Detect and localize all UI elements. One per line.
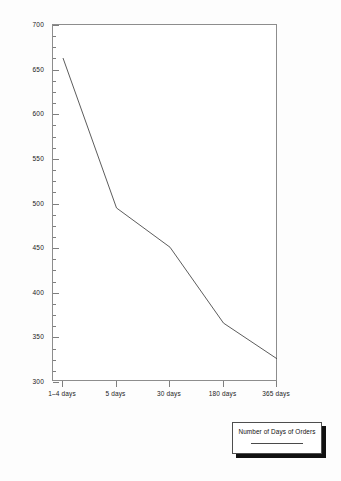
x-tick <box>223 381 224 387</box>
x-axis-tick-label: 5 days <box>105 390 125 397</box>
y-axis-labels: 300350400450500550600650700 <box>0 24 48 381</box>
y-axis-tick-label: 350 <box>33 333 44 340</box>
plot-area <box>52 24 277 381</box>
x-axis-labels: 1–4 days5 days30 days180 days365 days <box>52 390 277 404</box>
y-axis-tick-label: 500 <box>33 199 44 206</box>
y-axis-tick-label: 400 <box>33 288 44 295</box>
y-axis-tick-label: 450 <box>33 244 44 251</box>
y-axis-tick-label: 650 <box>33 65 44 72</box>
x-tick <box>169 381 170 387</box>
legend-series-label: Number of Days of Orders <box>233 428 321 435</box>
legend-box: Number of Days of Orders <box>232 422 322 454</box>
x-axis-tick-label: 180 days <box>209 390 237 397</box>
x-axis-tick-label: 1–4 days <box>48 390 76 397</box>
x-axis-tick-label: 365 days <box>262 390 290 397</box>
y-axis-tick-label: 300 <box>33 378 44 385</box>
y-axis-tick-label: 600 <box>33 110 44 117</box>
y-axis-tick-label: 550 <box>33 154 44 161</box>
y-axis-tick-label: 700 <box>33 21 44 28</box>
x-tick <box>276 381 277 387</box>
chart-legend: Number of Days of Orders <box>232 422 322 454</box>
line-series-path <box>63 58 277 359</box>
x-axis-ticks <box>52 381 277 387</box>
line-series-svg <box>53 25 278 382</box>
chart-figure: 300350400450500550600650700 1–4 days5 da… <box>0 0 341 481</box>
x-tick <box>116 381 117 387</box>
legend-line-swatch <box>251 443 303 444</box>
x-tick <box>62 381 63 387</box>
x-axis-tick-label: 30 days <box>157 390 181 397</box>
